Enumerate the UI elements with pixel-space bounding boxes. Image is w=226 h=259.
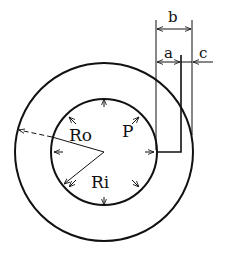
label-a: a <box>164 44 173 62</box>
label-ro: Ro <box>69 125 92 145</box>
a-offset-line <box>157 55 181 152</box>
ring-diagram: b a c Ro P Ri <box>0 0 226 259</box>
label-c: c <box>199 44 207 62</box>
label-p: P <box>122 121 133 141</box>
label-b: b <box>168 8 178 26</box>
label-ri: Ri <box>91 172 110 192</box>
